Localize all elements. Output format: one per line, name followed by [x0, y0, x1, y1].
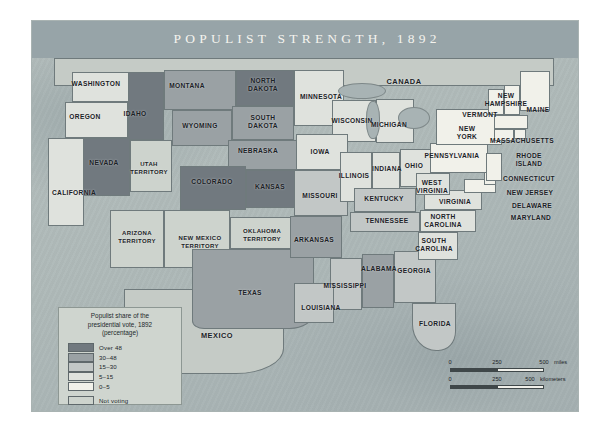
- state-washington: [72, 72, 130, 102]
- legend-swatch: [68, 343, 94, 352]
- state-tennessee: [350, 212, 420, 232]
- legend-title: Populist share of thepresidential vote, …: [59, 312, 181, 338]
- legend-row: 30–48: [68, 353, 128, 363]
- lake-huron-erie: [398, 107, 430, 129]
- lake-superior: [338, 83, 386, 99]
- scale-km-tick-0: 0: [448, 376, 451, 382]
- scale-miles-tick-500: 500: [539, 359, 548, 365]
- state-kentucky: [354, 188, 416, 212]
- scale-bar-kilometers: [450, 385, 544, 389]
- map-page: POPULIST STRENGTH, 1892: [0, 0, 609, 431]
- map-legend: Populist share of thepresidential vote, …: [58, 307, 182, 405]
- map-title: POPULIST STRENGTH, 1892: [32, 31, 578, 47]
- legend-row: Over 48: [68, 343, 128, 353]
- legend-swatch: [68, 362, 94, 371]
- legend-label: 30–48: [99, 354, 117, 361]
- state-rhode-island: [514, 129, 526, 139]
- state-north-carolina: [420, 210, 476, 232]
- state-connecticut: [494, 129, 514, 141]
- legend-label: Not voting: [99, 397, 128, 404]
- state-mississippi: [330, 258, 362, 310]
- legend-swatch: [68, 353, 94, 362]
- legend-label: 0–5: [99, 383, 110, 390]
- state-north-dakota: [236, 70, 294, 106]
- map-scale: 0 250 500 miles 0 250 500 kilometers: [450, 361, 562, 395]
- state-california: [48, 138, 84, 226]
- state-colorado: [180, 166, 246, 210]
- state-nevada: [82, 138, 130, 196]
- scale-bar-miles: [450, 368, 544, 372]
- state-west-virginia: [416, 173, 450, 195]
- legend-swatch: [68, 372, 94, 381]
- state-oregon: [65, 102, 128, 138]
- state-vermont: [488, 89, 504, 115]
- legend-title-line3: (percentage): [102, 329, 138, 336]
- territory-utah: [130, 140, 172, 192]
- scale-km-tick-500: 500: [525, 376, 534, 382]
- state-louisiana: [294, 283, 334, 323]
- legend-swatch: [68, 396, 94, 405]
- scale-miles-unit: miles: [554, 359, 567, 365]
- map-frame: POPULIST STRENGTH, 1892: [32, 21, 578, 411]
- state-pennsylvania: [430, 143, 488, 173]
- legend-class-list: Over 4830–4815–305–150–5Not voting: [68, 343, 128, 406]
- scale-km-tick-250: 250: [492, 376, 501, 382]
- map-title-band: POPULIST STRENGTH, 1892: [32, 21, 578, 58]
- state-new-jersey: [486, 153, 502, 181]
- state-montana: [164, 70, 236, 110]
- legend-title-line1: Populist share of the: [91, 312, 149, 319]
- legend-row: 0–5: [68, 381, 128, 391]
- state-new-hampshire: [504, 85, 520, 115]
- state-florida: [412, 303, 456, 351]
- scale-miles-tick-0: 0: [448, 359, 451, 365]
- legend-label: Over 48: [99, 344, 122, 351]
- state-south-dakota: [232, 106, 294, 140]
- legend-label: 5–15: [99, 373, 113, 380]
- legend-label: 15–30: [99, 363, 117, 370]
- lake-michigan: [366, 101, 380, 139]
- state-massachusetts: [494, 115, 528, 129]
- state-maine: [520, 71, 550, 111]
- state-arkansas: [290, 216, 342, 258]
- legend-title-line2: presidential vote, 1892: [88, 321, 152, 328]
- legend-swatch: [68, 382, 94, 391]
- legend-row: 15–30: [68, 362, 128, 372]
- legend-row: 5–15: [68, 372, 128, 382]
- state-alabama: [362, 254, 394, 308]
- legend-row: Not voting: [68, 396, 128, 406]
- territory-arizona: [110, 210, 164, 268]
- state-idaho: [128, 72, 164, 140]
- state-south-carolina: [418, 232, 458, 260]
- scale-miles-tick-250: 250: [492, 359, 501, 365]
- state-wyoming: [172, 110, 232, 146]
- scale-km-unit: kilometers: [540, 376, 566, 382]
